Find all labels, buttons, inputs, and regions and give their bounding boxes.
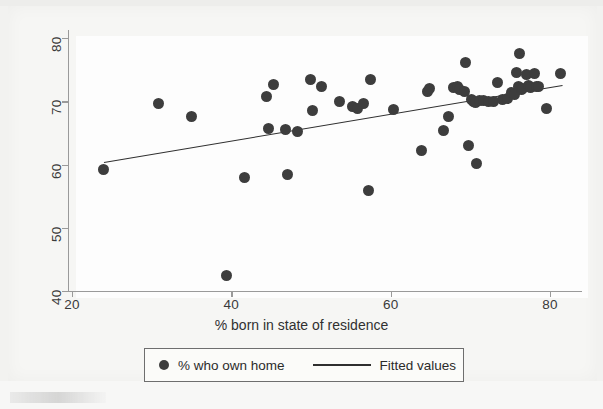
legend-label-fitted: Fitted values — [380, 358, 457, 373]
y-tick-label: 60 — [49, 163, 64, 178]
x-tick-label: 20 — [64, 297, 79, 312]
y-tick-label: 80 — [49, 37, 64, 52]
y-tick-label: 40 — [49, 290, 64, 305]
x-tick-label: 80 — [542, 297, 557, 312]
scan-artifact — [10, 392, 106, 403]
legend-entry-points: % who own home — [159, 349, 285, 381]
plot-area-background — [76, 36, 588, 298]
chart-legend: % who own home Fitted values — [144, 348, 464, 382]
y-axis-line — [68, 30, 69, 292]
x-tick-label: 60 — [383, 297, 398, 312]
x-axis-title: % born in state of residence — [0, 317, 603, 333]
filled-circle-icon — [159, 360, 169, 370]
legend-label-points: % who own home — [178, 358, 285, 373]
line-swatch-icon — [313, 364, 371, 365]
x-axis-line — [68, 291, 582, 292]
x-tick-label: 40 — [224, 297, 239, 312]
legend-entry-fitted: Fitted values — [313, 349, 457, 381]
y-tick-label: 50 — [49, 226, 64, 241]
screenshot-page: 4050607080 20406080 % born in state of r… — [0, 0, 603, 409]
y-tick-label: 70 — [49, 100, 64, 115]
